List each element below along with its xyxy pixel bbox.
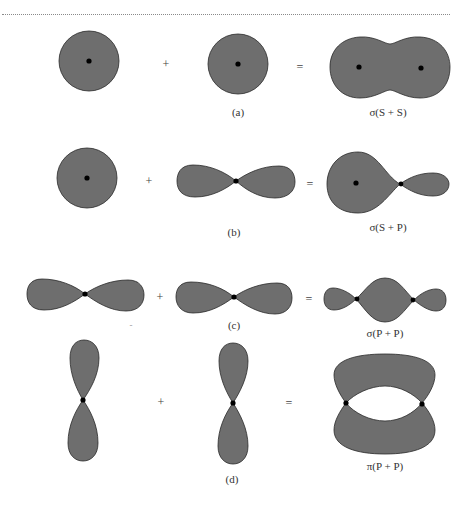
p-orbital-vertical-middle xyxy=(218,343,248,464)
nucleus-dot xyxy=(233,178,238,183)
p-orbital-middle xyxy=(176,282,292,314)
nucleus-dot xyxy=(86,58,91,63)
s-orbital-middle xyxy=(208,34,268,94)
p-orbital-left xyxy=(27,279,144,311)
equals-operator-b: = xyxy=(307,177,314,192)
row-label-b: (b) xyxy=(228,226,241,238)
row-d xyxy=(68,340,435,464)
result-label-a: σ(S + S) xyxy=(369,106,406,118)
p-orbital-vertical-left xyxy=(68,340,99,461)
row-a xyxy=(59,31,450,98)
row-c xyxy=(27,278,446,322)
nucleus-dot xyxy=(355,297,360,302)
sigma-bond-p-p-shape xyxy=(324,278,446,322)
sigma-bond-s-s-shape xyxy=(330,37,450,98)
nucleus-dot xyxy=(235,61,240,66)
nucleus-dot xyxy=(82,291,87,296)
result-label-c: σ(P + P) xyxy=(367,327,404,339)
stray-dash-mark: - xyxy=(130,320,133,330)
p-orbital-middle xyxy=(177,165,295,198)
pi-bond-p-p-shape xyxy=(334,354,435,454)
nucleus-dot xyxy=(418,65,423,70)
plus-operator-c: + xyxy=(157,290,164,305)
row-label-c: (c) xyxy=(228,319,240,331)
nucleus-dot xyxy=(356,64,361,69)
equals-operator-c: = xyxy=(306,292,313,307)
nucleus-dot xyxy=(411,298,416,303)
s-orbital-left xyxy=(59,31,119,91)
nucleus-dot xyxy=(343,400,348,405)
nucleus-dot xyxy=(80,397,85,402)
orbital-overlap-figure: .orb{fill:#6e6e6e;stroke:#2a2a2a;stroke-… xyxy=(0,0,470,506)
nucleus-dot xyxy=(231,294,236,299)
s-orbital-left xyxy=(57,148,117,208)
nucleus-dot xyxy=(419,401,424,406)
equals-operator-a: = xyxy=(297,60,304,75)
row-label-d: (d) xyxy=(226,473,239,485)
equals-operator-d: = xyxy=(286,396,293,411)
sigma-bond-s-p-shape xyxy=(327,152,449,213)
row-label-a: (a) xyxy=(232,106,244,118)
nucleus-dot xyxy=(353,180,358,185)
plus-operator-d: + xyxy=(158,395,165,410)
plus-operator-a: + xyxy=(163,57,170,72)
nucleus-dot xyxy=(230,400,235,405)
result-label-d: π(P + P) xyxy=(367,460,403,472)
nucleus-dot xyxy=(84,175,89,180)
plus-operator-b: + xyxy=(146,174,153,189)
nucleus-dot xyxy=(399,182,404,187)
result-label-b: σ(S + P) xyxy=(369,221,406,233)
row-b xyxy=(57,148,449,213)
